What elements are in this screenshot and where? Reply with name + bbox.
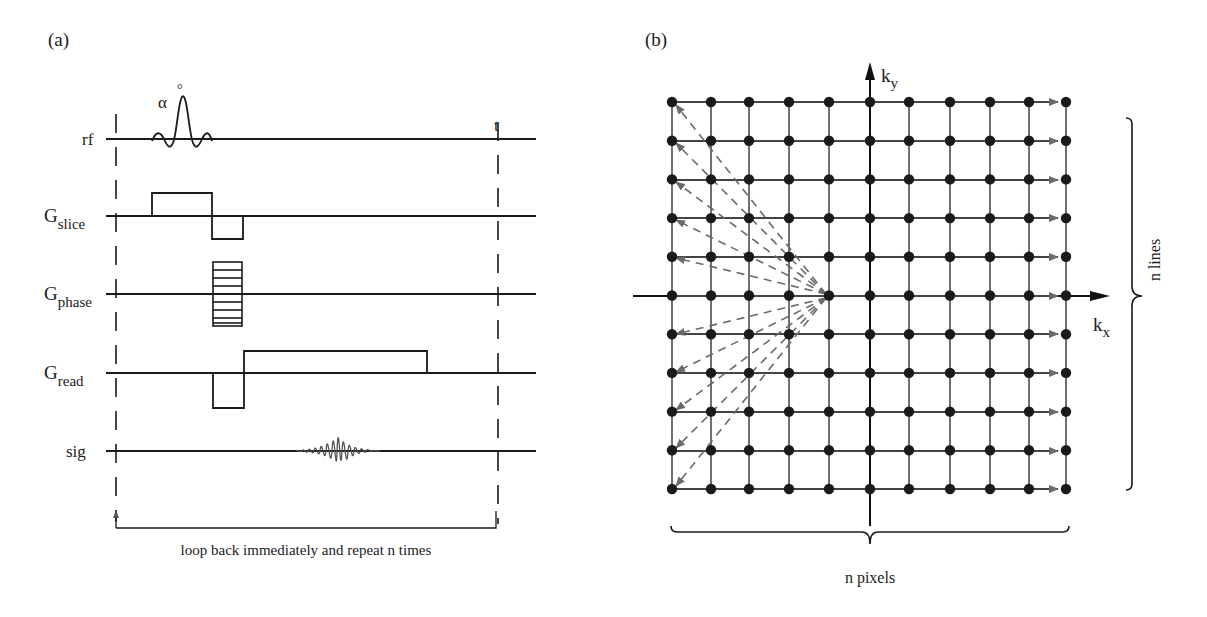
k-space-sample-point [904, 97, 914, 107]
k-space-sample-point [667, 445, 677, 455]
k-space-sample-point [824, 97, 834, 107]
k-space-sample-point [744, 213, 754, 223]
k-space-sample-point [784, 484, 794, 494]
k-space-sample-point [824, 484, 834, 494]
channel-label-rf: rf [82, 130, 94, 149]
k-space-sample-point [784, 445, 794, 455]
k-space-sample-point [784, 136, 794, 146]
k-space-sample-point [945, 136, 955, 146]
k-space-sample-point [985, 329, 995, 339]
k-space-sample-point [945, 252, 955, 262]
k-space-sample-point [667, 174, 677, 184]
k-space-sample-point [667, 252, 677, 262]
ky-axis-arrow-icon [865, 62, 875, 80]
channel-label-g-slice: Gslice [44, 205, 86, 232]
k-space-sample-point [904, 368, 914, 378]
loop-caption: loop back immediately and repeat n times [181, 542, 432, 558]
k-space-sample-point [945, 97, 955, 107]
k-space-sample-point [706, 329, 716, 339]
kx-axis-arrow-icon [1090, 291, 1110, 301]
k-space-sample-point [1024, 174, 1034, 184]
k-space-sample-point [945, 174, 955, 184]
k-space-sample-point [784, 368, 794, 378]
k-space-sample-point [904, 484, 914, 494]
k-space-sample-point [706, 136, 716, 146]
k-space-sample-point [1061, 136, 1071, 146]
k-space-sample-point [824, 213, 834, 223]
panel-a-pulse-sequence: (a) rf α ° t Gslice Gphase [44, 29, 536, 558]
k-space-sample-point [865, 213, 875, 223]
panel-b-k-space: (b) ky kx [633, 29, 1163, 587]
k-space-sample-point [784, 174, 794, 184]
k-space-sample-point [744, 406, 754, 416]
k-space-sample-point [667, 484, 677, 494]
n-lines-brace [1126, 118, 1142, 490]
n-lines-label: n lines [1146, 239, 1163, 281]
k-space-sample-point [1024, 97, 1034, 107]
k-space-sample-point [904, 445, 914, 455]
k-space-sample-point [865, 252, 875, 262]
k-space-sample-point [945, 329, 955, 339]
k-space-sample-point [1024, 368, 1034, 378]
figure-canvas: (a) rf α ° t Gslice Gphase [0, 0, 1207, 617]
k-space-sample-point [945, 406, 955, 416]
k-space-sample-point [744, 484, 754, 494]
k-space-sample-point [784, 290, 794, 300]
k-space-sample-point [667, 368, 677, 378]
channel-sig: sig [66, 438, 536, 461]
k-space-sample-point [904, 329, 914, 339]
k-space-sample-point [744, 290, 754, 300]
k-space-sample-point [744, 97, 754, 107]
k-space-sample-point [1061, 213, 1071, 223]
k-space-sample-point [667, 97, 677, 107]
k-space-sample-point [744, 174, 754, 184]
k-space-sample-point [1024, 484, 1034, 494]
k-space-sample-point [865, 136, 875, 146]
k-space-sample-point [1061, 174, 1071, 184]
k-space-sample-point [985, 174, 995, 184]
k-space-sample-point [1061, 329, 1071, 339]
k-space-sample-point [985, 213, 995, 223]
k-space-sample-point [904, 136, 914, 146]
k-space-sample-point [865, 368, 875, 378]
k-space-sample-point [865, 406, 875, 416]
k-space-sample-point [824, 329, 834, 339]
k-space-sample-point [945, 484, 955, 494]
k-space-sample-point [904, 174, 914, 184]
k-space-sample-point [865, 484, 875, 494]
panel-a-label: (a) [48, 29, 69, 51]
k-space-sample-point [985, 252, 995, 262]
k-space-sample-point [706, 445, 716, 455]
k-space-sample-point [865, 97, 875, 107]
k-space-sample-point [706, 406, 716, 416]
k-space-sample-point [865, 329, 875, 339]
k-space-sample-point [824, 136, 834, 146]
k-space-sample-point [1061, 290, 1071, 300]
k-space-sample-point [1024, 252, 1034, 262]
k-space-sample-point [865, 290, 875, 300]
n-pixels-label: n pixels [845, 569, 895, 587]
k-space-sample-point [1061, 97, 1071, 107]
k-space-sample-point [706, 368, 716, 378]
k-space-sample-point [824, 445, 834, 455]
kx-label: kx [1093, 314, 1111, 340]
k-space-sample-point [744, 136, 754, 146]
k-space-sample-point [706, 174, 716, 184]
k-space-sample-point [1024, 213, 1034, 223]
k-space-sample-point [744, 445, 754, 455]
channel-g-slice: Gslice [44, 193, 536, 239]
k-space-sample-point [904, 252, 914, 262]
k-space-sample-point [1061, 252, 1071, 262]
time-axis-label: t [494, 116, 499, 135]
k-space-sample-point [904, 213, 914, 223]
k-space-sample-point [1061, 368, 1071, 378]
echo-signal [296, 438, 380, 461]
k-space-sample-point [1024, 136, 1034, 146]
k-space-sample-point [904, 406, 914, 416]
k-space-sample-point [784, 406, 794, 416]
k-space-sample-point [985, 290, 995, 300]
k-space-sample-point [1024, 406, 1034, 416]
k-space-sample-point [1061, 484, 1071, 494]
channel-g-read: Gread [44, 351, 536, 408]
k-space-sample-point [667, 213, 677, 223]
